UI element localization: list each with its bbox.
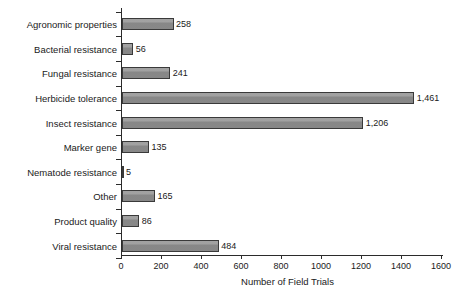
category-label: Insect resistance: [46, 117, 117, 128]
bar: [122, 240, 219, 252]
bar-row: Marker gene135: [0, 135, 465, 160]
category-label: Product quality: [54, 216, 117, 227]
y-axis-tick: [116, 159, 121, 160]
y-axis-tick: [116, 209, 121, 210]
bar-row: Bacterial resistance56: [0, 37, 465, 62]
category-label: Nematode resistance: [27, 166, 117, 177]
bar: [122, 166, 124, 178]
y-axis-tick: [116, 135, 121, 136]
category-label: Viral resistance: [52, 240, 117, 251]
bar-value-label: 165: [158, 191, 173, 201]
x-axis-tick-label: 600: [233, 261, 248, 272]
category-label: Herbicide tolerance: [35, 93, 117, 104]
bar: [122, 43, 133, 55]
y-axis-tick: [116, 61, 121, 62]
bar-row: Insect resistance1,206: [0, 110, 465, 135]
bar: [122, 141, 149, 153]
bar-chart: Agronomic properties258Bacterial resista…: [0, 0, 465, 299]
bar-row: Herbicide tolerance1,461: [0, 86, 465, 111]
bar: [122, 92, 414, 104]
bar-value-label: 86: [142, 216, 152, 226]
y-axis-tick: [116, 233, 121, 234]
x-axis-tick-label: 1600: [431, 261, 451, 272]
x-axis-tick: [241, 255, 242, 259]
bar: [122, 190, 155, 202]
x-axis-tick: [281, 255, 282, 259]
y-axis-tick: [116, 110, 121, 111]
x-axis-tick-label: 400: [193, 261, 208, 272]
x-axis-tick-label: 800: [273, 261, 288, 272]
x-axis-title-text: Number of Field Trials: [241, 276, 334, 287]
x-axis-tick-label: 1200: [351, 261, 371, 272]
bar-value-label: 258: [176, 19, 191, 29]
bar-value-label: 56: [136, 44, 146, 54]
x-axis-tick: [161, 255, 162, 259]
x-axis-tick-label: 200: [153, 261, 168, 272]
bar-value-label: 484: [221, 241, 236, 251]
y-axis-tick: [116, 184, 121, 185]
category-label: Bacterial resistance: [34, 43, 117, 54]
y-axis-tick: [116, 36, 121, 37]
bar-value-label: 1,461: [417, 93, 440, 103]
x-axis-tick: [441, 255, 442, 259]
x-axis-tick-label: 1400: [391, 261, 411, 272]
bar-value-label: 241: [173, 68, 188, 78]
y-axis-tick: [116, 12, 121, 13]
bar: [122, 67, 170, 79]
x-axis-tick-label: 0: [118, 261, 123, 272]
x-axis-tick: [121, 255, 122, 259]
bar-value-label: 5: [126, 167, 131, 177]
y-axis-tick: [116, 86, 121, 87]
bar: [122, 18, 174, 30]
x-axis-title: Number of Field Trials: [0, 276, 465, 288]
category-label: Fungal resistance: [42, 68, 117, 79]
category-label: Marker gene: [64, 142, 117, 153]
bar: [122, 215, 139, 227]
category-label: Other: [93, 191, 117, 202]
bar: [122, 117, 363, 129]
category-label: Agronomic properties: [27, 19, 117, 30]
x-axis-tick: [401, 255, 402, 259]
bar-row: Fungal resistance241: [0, 61, 465, 86]
bar-row: Agronomic properties258: [0, 12, 465, 37]
bar-value-label: 135: [152, 142, 167, 152]
x-axis-tick: [361, 255, 362, 259]
bar-value-label: 1,206: [366, 118, 389, 128]
bar-row: Other165: [0, 184, 465, 209]
plot-area: Agronomic properties258Bacterial resista…: [0, 0, 465, 299]
bar-row: Nematode resistance5: [0, 160, 465, 185]
bar-row: Product quality86: [0, 209, 465, 234]
x-axis-tick: [201, 255, 202, 259]
bar-row: Viral resistance484: [0, 233, 465, 258]
x-axis-tick: [321, 255, 322, 259]
x-axis-tick-label: 1000: [311, 261, 331, 272]
